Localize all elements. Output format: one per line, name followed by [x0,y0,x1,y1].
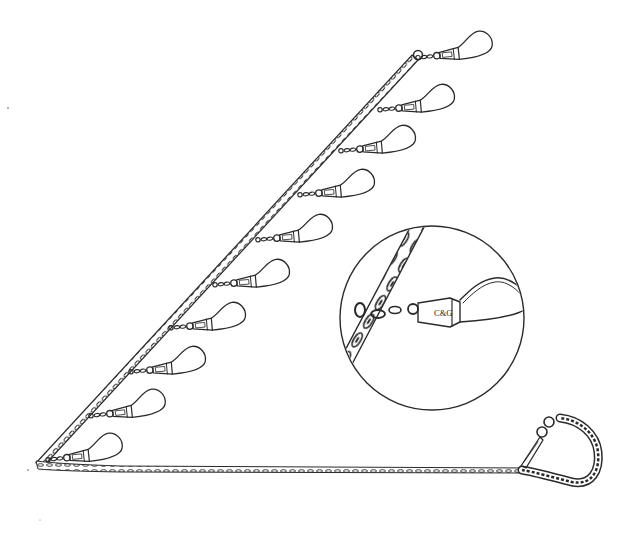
speck [7,107,9,109]
end-loop [521,417,598,483]
stringer-chain-bottom [36,461,525,473]
snap-clip [414,30,494,64]
end-ring-icon [544,417,554,427]
inset-brand-label: C&G [434,308,452,318]
carabiner-icon [521,437,543,468]
speck [27,469,29,471]
speck [39,519,40,520]
detail-inset: C&G [340,205,531,410]
fish-stringer-illustration: C&G [0,0,636,539]
